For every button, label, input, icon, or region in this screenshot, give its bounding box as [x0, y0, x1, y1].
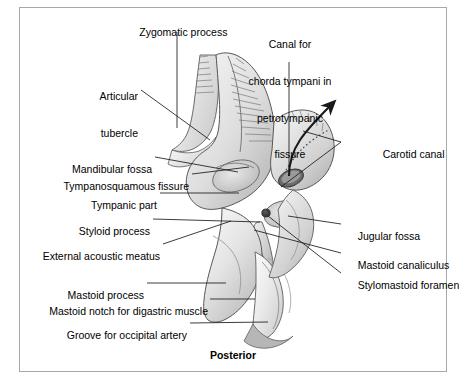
- label-carotid-canal: Carotid canal: [371, 136, 465, 173]
- zygomatic-process-shape: [172, 55, 218, 151]
- label-zygomatic-process-text: Zygomatic process: [139, 26, 227, 38]
- orientation-label-posterior: Posterior: [0, 349, 466, 361]
- label-styloid-process-text: Styloid process: [79, 225, 150, 237]
- label-zygomatic-process: Zygomatic process: [105, 14, 250, 51]
- anatomy-figure: Zygomatic process Canal for chorda tympa…: [0, 0, 466, 387]
- label-jugular-fossa-text: Jugular fossa: [358, 230, 420, 242]
- label-groove-occipital-artery-text: Groove for occipital artery: [67, 329, 187, 341]
- label-carotid-canal-text: Carotid canal: [383, 148, 445, 160]
- label-canal-chorda-tympani-line2: chorda tympani in: [230, 75, 350, 87]
- label-tympanic-part-text: Tympanic part: [91, 199, 157, 211]
- mastoid-process-shape: [204, 208, 262, 322]
- label-canal-chorda-tympani-line3: petrotympanic: [230, 112, 350, 124]
- label-external-acoustic-meatus: External acoustic meatus: [20, 238, 160, 275]
- label-mastoid-notch-text: Mastoid notch for digastric muscle: [49, 305, 208, 317]
- label-external-acoustic-meatus-text: External acoustic meatus: [43, 250, 160, 262]
- label-articular-tubercle-line1: Articular: [20, 90, 138, 102]
- label-canal-chorda-tympani: Canal for chorda tympani in petrotympani…: [230, 14, 350, 185]
- label-stylomastoid-foramen-text: Stylomastoid foramen: [358, 279, 460, 291]
- label-articular-tubercle-line2: tubercle: [20, 127, 138, 139]
- label-canal-chorda-tympani-line4: fissure: [230, 148, 350, 160]
- label-stylomastoid-foramen: Stylomastoid foramen: [346, 267, 464, 304]
- label-canal-chorda-tympani-line1: Canal for: [230, 38, 350, 50]
- label-articular-tubercle: Articular tubercle: [20, 66, 138, 164]
- stylomastoid-foramen-hole: [262, 209, 270, 217]
